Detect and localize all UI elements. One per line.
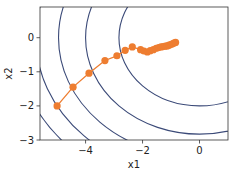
- x-axis-label: x1: [128, 159, 140, 170]
- y-axis-ticks: 0−1−2−3: [19, 32, 40, 145]
- x-tick-label: 0: [196, 145, 202, 156]
- trajectory-point: [53, 102, 60, 109]
- trajectory-point: [172, 39, 179, 46]
- y-tick-label: −3: [19, 135, 34, 146]
- trajectory-point: [101, 57, 108, 64]
- trajectory-point: [122, 47, 129, 54]
- x-tick-label: −4: [78, 145, 93, 156]
- trajectory-point: [85, 70, 92, 77]
- trajectory-point: [113, 52, 120, 59]
- trajectory-point: [129, 43, 136, 50]
- x-tick-label: −2: [135, 145, 150, 156]
- x-axis-ticks: −4−20: [78, 140, 203, 156]
- y-tick-label: 0: [28, 32, 34, 43]
- y-axis-label: x2: [3, 67, 14, 79]
- trajectory-point: [69, 84, 76, 91]
- contour-trajectory-chart: −4−20 0−1−2−3 x1 x2: [0, 0, 231, 177]
- y-tick-label: −2: [19, 100, 34, 111]
- y-tick-label: −1: [19, 66, 34, 77]
